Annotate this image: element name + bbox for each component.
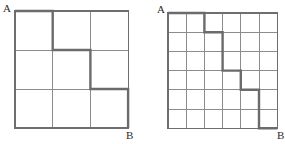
lattice-path-figure bbox=[0, 0, 285, 144]
left-grid-start-label: A bbox=[3, 3, 11, 14]
right-grid-end-label: B bbox=[277, 130, 284, 141]
left-grid-end-label: B bbox=[126, 130, 133, 141]
figure-background bbox=[0, 0, 285, 144]
right-grid-start-label: A bbox=[157, 4, 165, 15]
